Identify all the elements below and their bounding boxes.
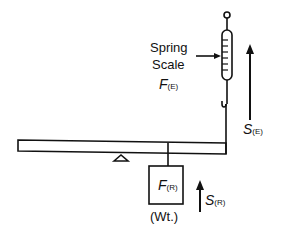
fulcrum-icon xyxy=(114,155,128,161)
resistance-distance-label: S(R) xyxy=(205,191,225,209)
effort-arrow-head xyxy=(246,44,254,54)
spring-scale-tube xyxy=(222,30,232,80)
spring-scale-label-line1: Spring xyxy=(150,40,188,55)
effort-force-label: F(E) xyxy=(159,75,178,93)
resistance-force-label: F(R) xyxy=(158,176,178,194)
effort-distance-label: S(E) xyxy=(243,120,263,138)
scale-ring-icon xyxy=(224,12,230,18)
hook-icon xyxy=(222,101,226,107)
weight-label: (Wt.) xyxy=(150,209,178,224)
spring-scale-label-line2: Scale xyxy=(152,57,185,72)
lever-drawing xyxy=(0,0,283,237)
lever-diagram: Spring Scale F(E) S(E) F(R) S(R) (Wt.) xyxy=(0,0,283,237)
resistance-arrow-head xyxy=(196,180,204,190)
lever-beam xyxy=(18,140,226,154)
